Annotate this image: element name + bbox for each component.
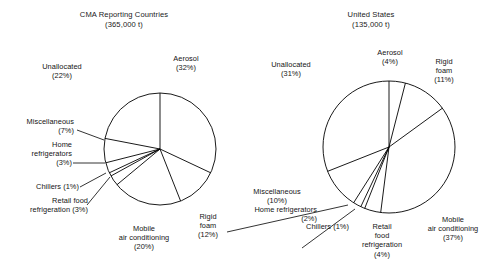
right-label-retail-food-line2: food [351,231,413,240]
figure-root: CMA Reporting Countries (365,000 t) [0,0,495,278]
left-label-home-refrig-line2: refrigerators [0,149,72,158]
left-label-aerosol-name: Aerosol [173,54,198,63]
right-label-mobile-ac-line2: air conditioning [411,224,495,233]
left-label-retail-food-refrigeration: Retail food refrigeration (3%) [0,196,88,214]
left-label-unallocated: Unallocated (22%) [26,62,98,80]
right-label-aerosol-name: Aerosol [377,48,402,57]
right-label-aerosol-pct: (4%) [363,57,417,66]
right-label-retail-food-line3: refrigeration [351,240,413,249]
left-leader-chillers [80,173,106,187]
right-label-rigid-foam: Rigid foam (11%) [423,57,465,85]
left-label-unallocated-pct: (22%) [26,71,98,80]
right-label-unallocated: Unallocated (31%) [255,60,327,78]
left-label-home-refrigerators: Home refrigerators (3%) [0,140,72,168]
left-label-miscellaneous-pct: (7%) [0,126,74,135]
left-label-rigid-foam-line1: Rigid [199,212,216,221]
right-label-mobile-ac-pct: (37%) [411,233,495,242]
right-label-miscellaneous-pct: (10%) [239,196,315,205]
right-label-rigid-foam-pct: (11%) [423,75,465,84]
right-label-mobile-air-conditioning: Mobile air conditioning (37%) [411,215,495,243]
left-label-miscellaneous: Miscellaneous (7%) [0,117,74,135]
left-label-mobile-air-conditioning: Mobile air conditioning (20%) [98,224,190,252]
right-label-unallocated-pct: (31%) [255,69,327,78]
left-label-retail-food-line1: Retail food [52,196,88,205]
left-label-mobile-ac-pct: (20%) [98,242,190,251]
right-label-retail-food-line1: Retail [372,222,391,231]
left-label-home-refrig-line1: Home [52,140,72,149]
left-label-retail-food-line2: refrigeration (3%) [0,205,88,214]
left-label-miscellaneous-name: Miscellaneous [27,117,74,126]
right-label-retail-food-pct: (4%) [351,250,413,259]
left-label-aerosol-pct: (32%) [158,63,214,72]
right-label-mobile-ac-line1: Mobile [442,215,464,224]
right-label-home-refrig-pct: (2%) [215,214,317,223]
right-label-miscellaneous: Miscellaneous (10%) [239,187,315,205]
left-label-mobile-ac-line2: air conditioning [98,233,190,242]
left-label-rigid-foam-pct: (12%) [186,230,230,239]
right-label-home-refrig-line1: Home refrigerators [254,205,317,214]
right-slice-edge-homerefrig-end [354,147,389,203]
right-label-rigid-foam-line1: Rigid [435,57,452,66]
left-leader-miscellaneous [77,130,104,140]
left-label-chillers-text: Chillers (1%) [36,182,79,191]
left-label-aerosol: Aerosol (32%) [158,54,214,72]
left-label-unallocated-name: Unallocated [42,62,82,71]
right-label-unallocated-name: Unallocated [271,60,311,69]
left-label-home-refrig-pct: (3%) [0,158,72,167]
right-label-retail-food-refrigeration: Retail food refrigeration (4%) [351,222,413,259]
left-slice-edge-retailfood-end [111,149,160,176]
pie-chart-cma-reporting-countries: CMA Reporting Countries (365,000 t) [0,0,248,278]
pie-chart-united-states: United States (135,000 t) [247,0,495,278]
left-slice-edge-chillers-end [109,149,160,173]
right-label-aerosol: Aerosol (4%) [363,48,417,66]
right-label-rigid-foam-line2: foam [423,66,465,75]
right-slice-edge-miscellaneous-end [328,147,389,171]
left-slice-edge-miscellaneous-end [105,138,160,149]
left-label-mobile-ac-line1: Mobile [133,224,155,233]
right-label-home-refrigerators: Home refrigerators (2%) [215,205,317,223]
left-label-chillers: Chillers (1%) [0,182,79,191]
right-label-miscellaneous-name: Miscellaneous [253,187,300,196]
